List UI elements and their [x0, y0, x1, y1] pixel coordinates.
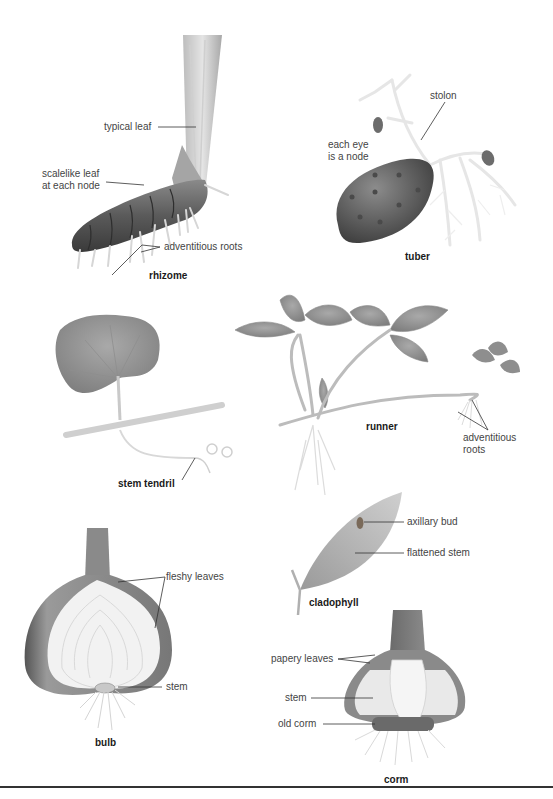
bottom-rule-divider [0, 786, 553, 788]
modified-stems-figure: typical leaf scalelike leaf at each node… [0, 0, 553, 799]
label-axillary-bud: axillary bud [407, 516, 458, 528]
title-stem-tendril: stem tendril [118, 478, 175, 489]
label-papery-leaves: papery leaves [271, 653, 333, 665]
label-fleshy-leaves: fleshy leaves [166, 571, 224, 583]
stem-tendril-illustration [56, 315, 232, 473]
title-rhizome: rhizome [149, 270, 187, 281]
label-roots-runner: roots [463, 444, 485, 456]
runner-leader-lines [458, 400, 488, 430]
title-runner: runner [366, 421, 398, 432]
label-scalelike-leaf: scalelike leaf [42, 168, 99, 180]
rhizome-illustration [72, 35, 228, 268]
label-stolon: stolon [430, 90, 457, 102]
corm-illustration [344, 610, 465, 765]
illustration-layer [0, 0, 553, 799]
label-at-each-node: at each node [42, 180, 100, 192]
label-each-eye: each eye [328, 139, 369, 151]
title-bulb: bulb [95, 737, 116, 748]
label-old-corm: old corm [278, 718, 316, 730]
label-is-a-node: is a node [328, 151, 369, 163]
label-flattened-stem: flattened stem [407, 547, 470, 559]
title-tuber: tuber [405, 251, 430, 262]
label-adventitious-runner: adventitious [463, 432, 516, 444]
label-stem-bulb: stem [166, 681, 188, 693]
label-stem-corm: stem [285, 692, 307, 704]
title-corm: corm [384, 774, 408, 785]
tuber-leader-lines [421, 102, 445, 140]
title-cladophyll: cladophyll [309, 597, 358, 608]
tendril-leader-line [182, 458, 195, 480]
runner-illustration [235, 295, 520, 495]
label-typical-leaf: typical leaf [104, 121, 151, 133]
label-adventitious-roots-rhizome: adventitious roots [164, 241, 242, 253]
bulb-illustration [25, 528, 172, 730]
